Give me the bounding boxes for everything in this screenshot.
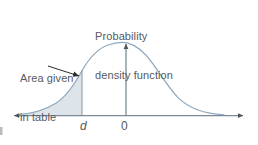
- area-annotation-line-2: in table: [20, 111, 74, 124]
- edge-registration-mark: [0, 127, 3, 135]
- area-annotation-line-1: Area given: [20, 72, 74, 85]
- area-annotation: Area given in table: [20, 46, 74, 145]
- x-axis-tick-label-d: d: [80, 119, 87, 133]
- x-axis-left-arrowhead: [14, 113, 19, 118]
- pdf-title: Probability density function: [95, 4, 173, 108]
- normal-distribution-figure: Probability density function Area given …: [0, 0, 258, 145]
- x-axis-tick-label-zero: 0: [121, 119, 128, 133]
- pdf-title-line-1: Probability: [95, 30, 173, 43]
- pdf-title-line-2: density function: [95, 69, 173, 82]
